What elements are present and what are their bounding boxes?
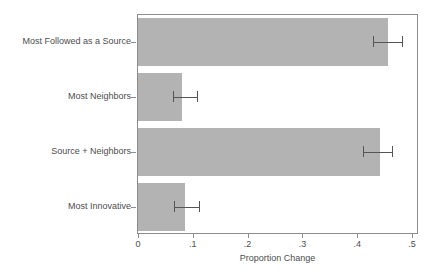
- x-axis-title: Proportion Change: [137, 253, 418, 263]
- plot-area: [137, 14, 418, 234]
- error-bar-cap-low: [174, 201, 175, 212]
- x-axis-tick-label: .2: [238, 239, 258, 250]
- error-bar-cap-high: [402, 36, 403, 47]
- error-bar: [173, 97, 197, 98]
- y-axis-tick-label: Most Innovative: [68, 201, 131, 212]
- y-axis-tick-label: Most Neighbors: [68, 91, 131, 102]
- error-bar: [174, 207, 199, 208]
- x-axis-tick-label: .1: [183, 239, 203, 250]
- error-bar-cap-low: [363, 146, 364, 157]
- x-axis-tick-mark: [193, 234, 194, 238]
- error-bar-cap-high: [392, 146, 393, 157]
- error-bar: [373, 42, 402, 43]
- x-axis-tick-label: .5: [402, 239, 422, 250]
- x-axis-tick-label: 0: [128, 239, 148, 250]
- error-bar-cap-high: [197, 91, 198, 102]
- x-axis-tick-mark: [357, 234, 358, 238]
- y-axis-tick-mark: [131, 42, 136, 43]
- x-axis-tick-mark: [302, 234, 303, 238]
- x-axis-tick-label: .3: [292, 239, 312, 250]
- error-bar: [363, 152, 392, 153]
- x-axis-tick-mark: [248, 234, 249, 238]
- error-bar-cap-low: [173, 91, 174, 102]
- error-bar-cap-low: [373, 36, 374, 47]
- bar: [138, 18, 388, 66]
- x-axis-tick-label: .4: [347, 239, 367, 250]
- y-axis-tick-mark: [131, 97, 136, 98]
- y-axis-tick-mark: [131, 207, 136, 208]
- x-axis-tick-mark: [138, 234, 139, 238]
- y-axis-tick-mark: [131, 152, 136, 153]
- y-axis-tick-label: Most Followed as a Source: [22, 36, 131, 47]
- y-axis-tick-label: Source + Neighbors: [51, 146, 131, 157]
- x-axis-tick-mark: [412, 234, 413, 238]
- y-axis-category-labels: Most Followed as a SourceMost NeighborsS…: [0, 0, 131, 273]
- proportion-change-bar-chart: Most Followed as a SourceMost NeighborsS…: [0, 0, 435, 273]
- bar: [138, 128, 380, 176]
- error-bar-cap-high: [199, 201, 200, 212]
